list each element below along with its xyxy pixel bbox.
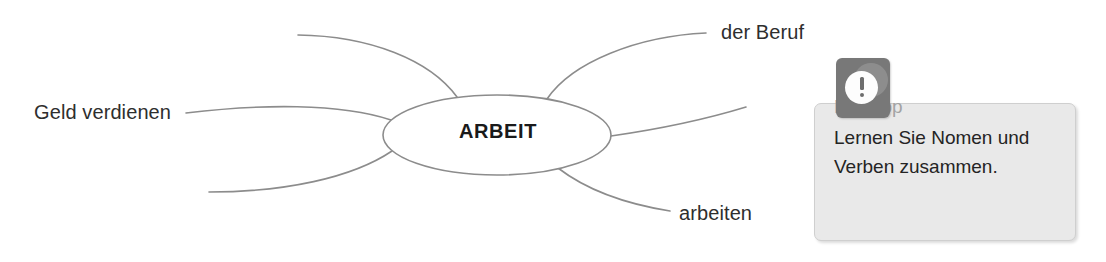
mindmap-branch-bottom-left (209, 151, 392, 192)
mindmap-label-der-beruf: der Beruf (721, 21, 804, 44)
lerntipp-body: Lernen Sie Nomen und Verben zusammen. (834, 123, 1064, 181)
lerntipp-badge (836, 58, 890, 118)
mindmap-center-label: ARBEIT (383, 120, 613, 143)
lerntipp-body-line-2: Verben zusammen. (834, 152, 1064, 181)
mindmap-label-arbeiten: arbeiten (679, 202, 752, 225)
mindmap-label-geld-verdienen: Geld verdienen (34, 101, 171, 124)
lerntipp-callout: Lerntipp Lernen Sie Nomen und Verben zus… (814, 58, 1078, 243)
lerntipp-body-line-1: Lernen Sie Nomen und (834, 123, 1064, 152)
exclamation-icon (845, 71, 878, 104)
mindmap-branch-top-right (547, 33, 706, 99)
mindmap-branch-right (611, 107, 746, 136)
mindmap-branch-left (186, 107, 391, 120)
mindmap-branch-bottom-right (558, 168, 670, 211)
mindmap-branch-top-left (298, 35, 457, 97)
